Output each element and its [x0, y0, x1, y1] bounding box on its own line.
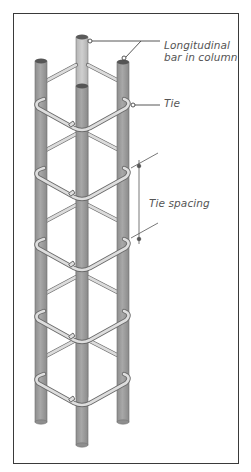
- longitudinal-bar-label: Longitudinal bar in column: [164, 39, 244, 63]
- tie-spacing-label: Tie spacing: [149, 197, 210, 209]
- longitudinal-bar-label-line1: Longitudinal: [164, 39, 244, 51]
- leader-tie: [131, 103, 160, 107]
- longitudinal-bar-label-line2: bar in column: [164, 51, 244, 63]
- column-reinforcement-figure: Longitudinal bar in column Tie Tie spaci…: [0, 0, 251, 472]
- leader-longitudinal: [88, 39, 160, 60]
- rebar-cage-drawing: [0, 0, 251, 472]
- longitudinal-bar-front: [76, 83, 88, 447]
- tie-label: Tie: [164, 97, 180, 109]
